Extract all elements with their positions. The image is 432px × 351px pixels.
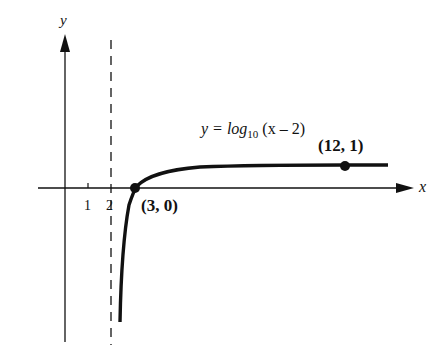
tick-label-2: 2 xyxy=(106,198,113,214)
eq-prefix: y = log xyxy=(201,120,247,137)
x-axis-arrow-icon xyxy=(396,183,414,193)
eq-subscript: 10 xyxy=(247,128,258,140)
point-label-3-0: (3, 0) xyxy=(141,196,178,216)
y-axis-label: y xyxy=(60,12,67,29)
tick-label-1: 1 xyxy=(84,198,91,214)
eq-suffix: (x – 2) xyxy=(258,120,305,137)
point-12-1 xyxy=(340,161,350,171)
point-3-0 xyxy=(130,183,140,193)
log-function-graph xyxy=(0,0,432,351)
x-axis-label: x xyxy=(419,178,426,196)
point-label-12-1: (12, 1) xyxy=(318,136,363,156)
equation-label: y = log10 (x – 2) xyxy=(201,120,305,140)
y-axis-arrow-icon xyxy=(60,34,70,52)
